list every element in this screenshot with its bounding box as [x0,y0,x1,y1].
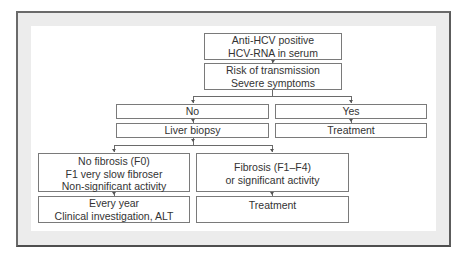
node-yes: Yes [275,104,427,119]
arrow-down-icon [112,192,116,195]
node-line: No [186,105,199,118]
node-liver-biopsy: Liver biopsy [116,123,269,138]
arrow-down-icon [349,119,353,122]
node-no-fibrosis: No fibrosis (F0) F1 very slow fibroser N… [38,153,190,192]
node-line: HCV-RNA in serum [228,47,318,60]
node-line: Treatment [327,124,374,137]
node-treatment-yes: Treatment [275,123,427,138]
node-fibrosis: Fibrosis (F1–F4) or significant activity [196,153,349,192]
node-line: Non-significant activity [62,180,166,193]
connector-line [193,96,352,97]
node-risk-of-transmission: Risk of transmission Severe symptoms [204,63,342,90]
arrow-down-icon [112,149,116,152]
node-line: F1 very slow fibroser [66,168,163,181]
node-line: Yes [342,105,359,118]
node-line: No fibrosis (F0) [78,155,150,168]
node-line: Severe symptoms [231,77,315,90]
arrow-down-icon [191,139,195,142]
node-line: Risk of transmission [226,64,320,77]
node-line: Fibrosis (F1–F4) [234,161,311,174]
connector-line [114,145,273,146]
node-line: Anti-HCV positive [232,34,314,47]
node-no: No [116,104,269,119]
node-line: Treatment [249,199,296,212]
node-line: Every year [89,197,139,210]
arrow-down-icon [270,192,274,195]
arrow-down-icon [191,100,195,103]
node-treatment-fibrosis: Treatment [196,196,349,223]
node-line: or significant activity [226,174,320,187]
node-anti-hcv-positive: Anti-HCV positive HCV-RNA in serum [204,33,342,60]
node-line: Clinical investigation, ALT [55,210,174,223]
node-line: Liver biopsy [164,124,220,137]
node-every-year: Every year Clinical investigation, ALT [38,196,190,223]
arrow-down-icon [270,149,274,152]
arrow-down-icon [191,119,195,122]
arrow-down-icon [349,100,353,103]
